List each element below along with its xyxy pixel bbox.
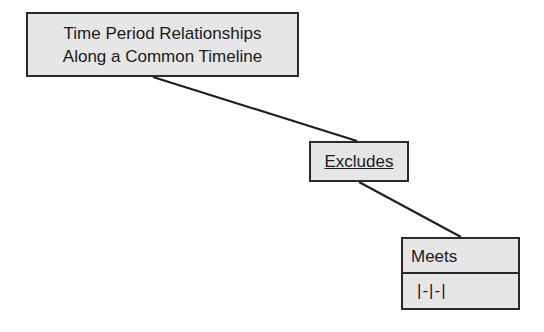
root-node: Time Period Relationships Along a Common… (26, 12, 299, 77)
root-label-line1: Time Period Relationships (63, 22, 262, 45)
edge-excludes-to-meets (359, 182, 461, 237)
excludes-node: Excludes (309, 141, 409, 182)
meets-node: Meets |-|-| (401, 237, 520, 310)
excludes-label: Excludes (325, 152, 394, 172)
edge-root-to-excludes (153, 77, 357, 141)
root-label-line2: Along a Common Timeline (63, 45, 262, 68)
meets-header: Meets (403, 239, 518, 274)
meets-symbol: |-|-| (403, 274, 518, 308)
